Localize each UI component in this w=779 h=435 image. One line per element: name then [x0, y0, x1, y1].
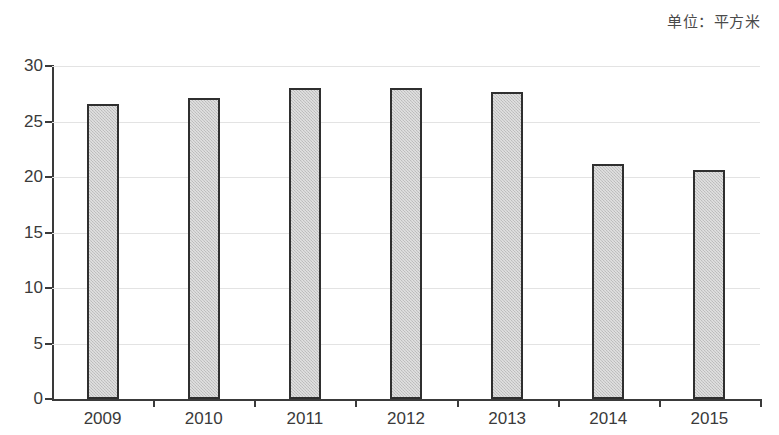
x-axis-line — [52, 399, 761, 401]
bar-chart: 051015202530 200920102011201220132014201… — [0, 0, 779, 435]
y-axis-label: 30 — [9, 57, 43, 74]
gridline — [52, 66, 760, 67]
x-axis-label: 2014 — [558, 409, 659, 429]
bar — [592, 164, 624, 399]
bar — [390, 88, 422, 399]
y-axis-label: 15 — [9, 224, 43, 241]
x-axis-label: 2011 — [254, 409, 355, 429]
bar — [289, 88, 321, 399]
y-axis-label: 0 — [9, 390, 43, 407]
bar — [188, 98, 220, 399]
x-axis-label: 2013 — [457, 409, 558, 429]
x-axis-tick — [355, 399, 357, 407]
y-axis-label: 5 — [9, 335, 43, 352]
x-axis-tick — [659, 399, 661, 407]
bar — [491, 92, 523, 399]
x-axis-tick — [153, 399, 155, 407]
plot-area — [52, 66, 760, 399]
x-axis-label: 2009 — [52, 409, 153, 429]
x-axis-tick — [558, 399, 560, 407]
bar — [693, 170, 725, 399]
x-axis-tick — [457, 399, 459, 407]
y-axis-label: 25 — [9, 113, 43, 130]
x-axis-tick — [760, 399, 762, 407]
y-axis-label: 20 — [9, 168, 43, 185]
x-axis-label: 2010 — [153, 409, 254, 429]
bar — [87, 104, 119, 399]
x-axis-label: 2012 — [356, 409, 457, 429]
x-axis-label: 2015 — [659, 409, 760, 429]
x-axis-tick — [254, 399, 256, 407]
y-axis-label: 10 — [9, 279, 43, 296]
